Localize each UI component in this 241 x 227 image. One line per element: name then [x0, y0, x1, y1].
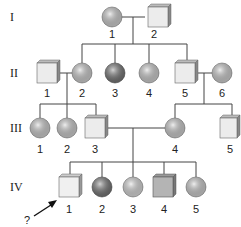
svg-text:2: 2	[99, 203, 105, 215]
individual-II-3: 3	[105, 63, 125, 99]
generation-label-I: I	[10, 10, 14, 24]
generation-label-IV: IV	[10, 180, 23, 194]
individual-IV-1: 1	[59, 174, 82, 215]
svg-text:1: 1	[66, 203, 72, 215]
individual-III-3: 3	[85, 115, 108, 155]
svg-text:1: 1	[44, 87, 50, 99]
proband-arrow-icon	[34, 200, 57, 216]
generation-label-III: III	[10, 121, 22, 135]
svg-text:1: 1	[37, 143, 43, 155]
individual-II-6: 6	[212, 63, 232, 99]
individual-II-5: 5	[175, 60, 198, 99]
individual-III-2: 2	[57, 118, 77, 155]
svg-text:2: 2	[79, 87, 85, 99]
pedigree-diagram: I II III IV 1	[0, 0, 241, 227]
svg-text:4: 4	[172, 143, 178, 155]
generation-label-II: II	[10, 66, 18, 80]
svg-text:3: 3	[112, 87, 118, 99]
svg-text:4: 4	[161, 203, 167, 215]
individual-IV-3: 3	[123, 177, 143, 215]
individual-III-1: 1	[30, 118, 50, 155]
svg-text:6: 6	[219, 87, 225, 99]
svg-text:3: 3	[92, 143, 98, 155]
individual-IV-4: 4	[153, 174, 176, 215]
individual-II-2: 2	[72, 63, 92, 99]
individual-I-2: 2	[148, 4, 171, 40]
svg-text:4: 4	[146, 87, 152, 99]
svg-text:5: 5	[227, 143, 233, 155]
individual-IV-5: 5	[186, 177, 206, 215]
individual-III-5: 5	[220, 115, 240, 155]
individual-III-4: 4	[165, 118, 185, 155]
svg-text:2: 2	[64, 143, 70, 155]
svg-text:3: 3	[130, 203, 136, 215]
individual-IV-2: 2	[92, 177, 112, 215]
svg-text:2: 2	[151, 28, 157, 40]
individual-II-1: 1	[37, 60, 60, 99]
svg-text:5: 5	[193, 203, 199, 215]
svg-text:1: 1	[109, 28, 115, 40]
proband-question-mark: ?	[24, 214, 30, 226]
individual-I-1: 1	[102, 7, 122, 40]
individual-II-4: 4	[139, 63, 159, 99]
svg-text:5: 5	[182, 87, 188, 99]
